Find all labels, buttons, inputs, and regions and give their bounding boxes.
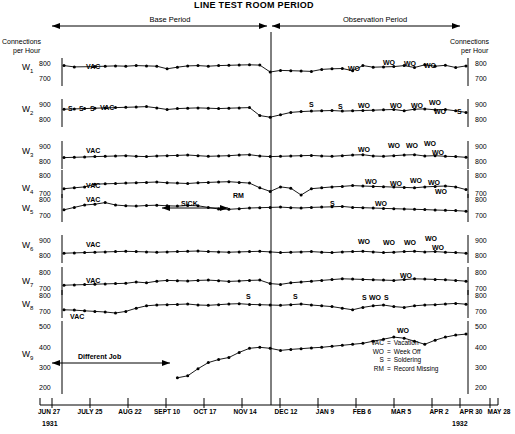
- data-point-w3-38: [454, 155, 457, 158]
- series-line-w6-0: [64, 251, 466, 253]
- data-point-w6-25: [320, 251, 323, 254]
- data-point-w1-37: [454, 66, 457, 69]
- data-point-w9-13: [310, 346, 313, 349]
- x-tick-label-8: FEB 6: [345, 409, 379, 416]
- series-line-w2-0: [64, 107, 466, 118]
- annotation-w2-s-3: S: [90, 105, 95, 112]
- data-point-w3-39: [465, 156, 468, 159]
- data-point-w1-1: [73, 65, 76, 68]
- data-point-w8-37: [444, 303, 447, 306]
- data-point-w3-13: [197, 154, 200, 157]
- data-point-w2-10: [166, 108, 169, 111]
- data-point-w5-9: [155, 204, 158, 207]
- data-point-w1-21: [289, 69, 292, 72]
- data-point-w3-5: [114, 155, 117, 158]
- data-point-w7-6: [124, 282, 127, 285]
- data-point-w6-11: [176, 250, 179, 253]
- data-point-w8-17: [238, 302, 241, 305]
- data-point-w8-26: [331, 305, 334, 308]
- data-point-w1-13: [207, 65, 210, 68]
- data-point-w5-7: [135, 205, 138, 208]
- data-point-w5-16: [227, 208, 230, 211]
- sick-arrowhead-right: [220, 205, 228, 211]
- series-line-w8-0: [64, 303, 466, 313]
- annotation-w7-vac: VAC: [86, 277, 100, 284]
- data-point-w8-8: [145, 304, 148, 307]
- data-point-w7-28: [351, 278, 354, 281]
- data-point-w6-2: [83, 251, 86, 254]
- data-point-w3-22: [289, 155, 292, 158]
- annotation-w2-vac: VAC: [100, 104, 114, 111]
- annotation-w6-wo-2: WO: [383, 239, 395, 246]
- annotation-w2-wo-4: WO: [429, 99, 441, 106]
- data-point-w5-5: [114, 204, 117, 207]
- data-point-w5-15: [217, 208, 220, 211]
- data-point-w8-0: [63, 308, 66, 311]
- data-point-w8-13: [197, 304, 200, 307]
- data-point-w2-8: [145, 105, 148, 108]
- data-point-w6-14: [207, 250, 210, 253]
- data-point-w3-8: [145, 155, 148, 158]
- data-point-w1-5: [124, 65, 127, 68]
- data-point-w8-10: [166, 303, 169, 306]
- data-point-w2-35: [423, 107, 426, 110]
- data-point-w7-23: [300, 281, 303, 284]
- data-point-w7-18: [248, 279, 251, 282]
- data-point-w5-3: [93, 203, 96, 206]
- data-point-w5-39: [465, 210, 468, 213]
- data-point-w6-20: [269, 250, 272, 253]
- data-point-w1-24: [320, 68, 323, 71]
- data-point-w3-3: [93, 155, 96, 158]
- data-point-w2-24: [310, 110, 313, 113]
- data-point-w2-20: [269, 116, 272, 119]
- annotation-w5-sick: SICK: [181, 200, 198, 207]
- data-point-w1-9: [166, 67, 169, 70]
- data-point-w7-17: [238, 280, 241, 283]
- data-point-w4-1: [73, 186, 76, 189]
- data-point-w6-1: [73, 251, 76, 254]
- data-point-w3-9: [155, 155, 158, 158]
- different-job-arrowhead-right: [162, 360, 170, 366]
- data-point-w7-21: [279, 283, 282, 286]
- data-point-w6-10: [166, 250, 169, 253]
- data-point-w2-26: [331, 109, 334, 112]
- annotation-w8-s-1: S: [246, 293, 251, 300]
- annotation-w3-wo-5: WO: [432, 149, 444, 156]
- data-point-w5-27: [341, 205, 344, 208]
- data-point-w7-5: [114, 282, 117, 285]
- data-point-w5-33: [403, 208, 406, 211]
- data-point-w6-37: [444, 251, 447, 254]
- data-point-w4-18: [248, 182, 251, 185]
- legend-key-vac: VAC: [371, 339, 387, 348]
- annotation-w4-wo-4: WO: [428, 179, 440, 186]
- legend-item-rm: RM = Record Missing: [371, 365, 438, 374]
- data-point-w3-4: [104, 155, 107, 158]
- data-point-w2-28: [351, 109, 354, 112]
- data-point-w8-38: [454, 302, 457, 305]
- data-point-w7-34: [413, 277, 416, 280]
- data-point-w6-6: [124, 250, 127, 253]
- data-point-w3-16: [227, 154, 230, 157]
- data-point-w3-7: [135, 155, 138, 158]
- data-point-w3-26: [331, 155, 334, 158]
- annotation-w1-wo-4: WO: [424, 62, 436, 69]
- data-point-w7-32: [392, 279, 395, 282]
- data-point-w4-15: [217, 181, 220, 184]
- data-point-w7-39: [465, 280, 468, 283]
- data-point-w6-32: [392, 251, 395, 254]
- data-point-w6-13: [197, 250, 200, 253]
- data-point-w9-7: [248, 347, 251, 350]
- data-point-w4-34: [413, 186, 416, 189]
- data-point-w8-16: [227, 303, 230, 306]
- data-point-w7-11: [176, 279, 179, 282]
- data-point-w9-2: [197, 367, 200, 370]
- data-point-w2-31: [382, 108, 385, 111]
- data-point-w5-19: [258, 206, 261, 209]
- data-point-w8-5: [114, 312, 117, 315]
- data-point-w8-21: [279, 304, 282, 307]
- annotation-w2-wo-3: WO: [411, 102, 423, 109]
- data-point-w5-2: [83, 204, 86, 207]
- data-point-w7-7: [135, 281, 138, 284]
- data-point-w7-10: [166, 279, 169, 282]
